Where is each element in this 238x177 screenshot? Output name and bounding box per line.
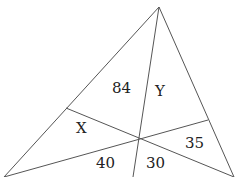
label-35: 35	[185, 136, 204, 151]
label-x: X	[76, 121, 87, 136]
left-side	[4, 7, 159, 177]
label-40: 40	[96, 156, 115, 171]
label-30: 30	[146, 156, 165, 171]
triangle-diagram: 84 Y X 35 40 30	[0, 0, 238, 177]
label-84: 84	[112, 81, 131, 96]
label-y: Y	[155, 84, 165, 99]
